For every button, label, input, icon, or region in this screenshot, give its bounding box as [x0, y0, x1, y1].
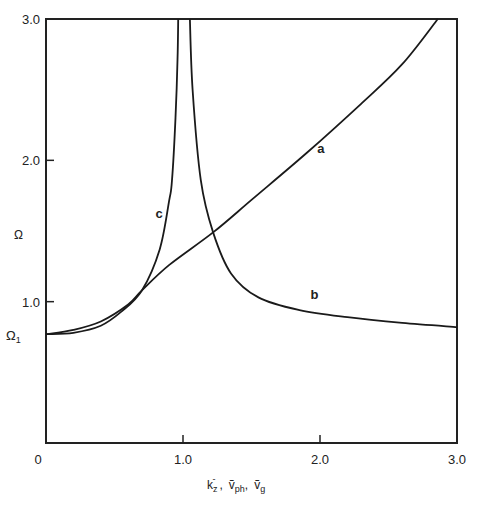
x-tick-label: 3.0 [448, 452, 466, 467]
y-axis-label: Ω [14, 228, 23, 242]
x-tick-label: 2.0 [311, 452, 329, 467]
x-axis-label: kz-,ṽph,ṽg [207, 474, 265, 494]
x-tick-label: 0 [34, 452, 41, 467]
curve-label-a: a [317, 141, 325, 156]
plot-frame [46, 19, 457, 443]
y-annotation-omega1: Ω1 [6, 328, 21, 345]
curve-label-c: c [156, 206, 163, 221]
y-tick-label: 2.0 [22, 153, 40, 168]
dispersion-chart: 01.02.03.01.02.03.0 abc Ω Ω1 kz-,ṽph,ṽg [0, 0, 478, 505]
curve-c [46, 19, 178, 334]
curve-b [190, 19, 457, 327]
x-tick-label: 1.0 [174, 452, 192, 467]
y-tick-label: 3.0 [22, 12, 40, 27]
curve-label-b: b [310, 287, 318, 302]
y-tick-label: 1.0 [22, 295, 40, 310]
